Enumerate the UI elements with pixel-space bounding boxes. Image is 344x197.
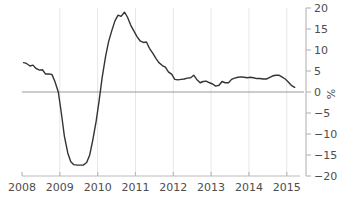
y-label-neg10: −10 (314, 128, 337, 141)
x-label-2008: 2008 (8, 181, 36, 194)
y-axis (306, 8, 311, 176)
y-label-15: 15 (314, 23, 328, 36)
x-label-2010: 2010 (84, 181, 112, 194)
y-label-neg15: −15 (314, 149, 337, 162)
y-label-5: 5 (314, 65, 321, 78)
y-label-20: 20 (314, 2, 328, 15)
chart-container: 20082009201020112012201320142015 2015105… (0, 0, 344, 197)
x-label-2012: 2012 (159, 181, 187, 194)
x-axis-tick-labels: 20082009201020112012201320142015 (8, 181, 301, 194)
data-series (24, 12, 295, 165)
y-label-neg20: −20 (314, 170, 337, 183)
y-label-neg5: −5 (314, 107, 330, 120)
x-label-2009: 2009 (46, 181, 74, 194)
y-label-0: 0 (314, 86, 321, 99)
y-label-10: 10 (314, 44, 328, 57)
series-line-growth-rate (24, 12, 295, 165)
x-label-2014: 2014 (235, 181, 263, 194)
x-label-2015: 2015 (273, 181, 301, 194)
x-label-2013: 2013 (197, 181, 225, 194)
line-chart: 20082009201020112012201320142015 2015105… (0, 0, 344, 197)
x-label-2011: 2011 (121, 181, 149, 194)
x-axis (22, 172, 300, 176)
y-axis-unit-label: % (325, 89, 338, 99)
axis-unit-percent: % (325, 89, 338, 99)
